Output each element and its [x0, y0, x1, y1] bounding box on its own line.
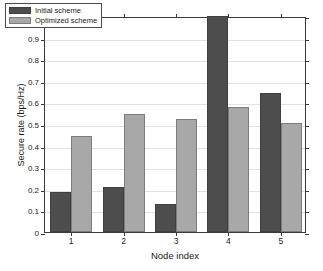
- x-tick-label: 5: [278, 237, 283, 246]
- y-axis-title: Secure rate (bps/Hz): [14, 17, 28, 233]
- y-tick-label: 0.1: [28, 208, 39, 216]
- y-tick-mark-right: [305, 234, 309, 235]
- y-tick-mark-right: [305, 148, 309, 149]
- gridline: [45, 61, 305, 62]
- y-tick-mark-right: [305, 83, 309, 84]
- y-tick-mark: [41, 191, 45, 192]
- x-tick-mark-top: [228, 14, 229, 18]
- bar-optimized-node-4: [228, 107, 249, 232]
- y-tick-mark-right: [305, 18, 309, 19]
- bar-initial-node-3: [155, 204, 176, 232]
- y-tick-label: 0.9: [28, 36, 39, 44]
- gridline: [45, 40, 305, 41]
- y-tick-label: 0: [35, 230, 39, 238]
- y-tick-label: 0.3: [28, 165, 39, 173]
- y-tick-mark-right: [305, 191, 309, 192]
- bar-optimized-node-1: [71, 136, 92, 232]
- y-tick-mark: [41, 126, 45, 127]
- x-axis-title: Node index: [44, 250, 306, 261]
- y-tick-label: 0.2: [28, 187, 39, 195]
- y-tick-mark: [41, 61, 45, 62]
- y-tick-mark: [41, 104, 45, 105]
- y-tick-mark: [41, 83, 45, 84]
- y-tick-mark-right: [305, 169, 309, 170]
- bar-optimized-node-3: [176, 119, 197, 232]
- bar-optimized-node-2: [124, 114, 145, 232]
- bar-chart-figure: Secure rate (bps/Hz) 00.10.20.30.40.50.6…: [0, 0, 323, 271]
- x-tick-mark-top: [176, 14, 177, 18]
- y-tick-label: 0.5: [28, 122, 39, 130]
- x-tick-mark-top: [124, 14, 125, 18]
- legend-label: Initial scheme: [35, 7, 81, 15]
- legend-item[interactable]: Initial scheme: [9, 6, 97, 15]
- y-tick-label: 0.8: [28, 57, 39, 65]
- bar-initial-node-5: [260, 93, 281, 232]
- bar-initial-node-2: [103, 187, 124, 232]
- y-tick-mark-right: [305, 61, 309, 62]
- legend-item[interactable]: Optimized scheme: [9, 16, 97, 25]
- y-tick-label: 0.6: [28, 100, 39, 108]
- plot-area: 00.10.20.30.40.50.60.70.80.91 12345: [44, 17, 306, 233]
- x-tick-mark-top: [281, 14, 282, 18]
- x-tick-label: 4: [226, 237, 231, 246]
- y-tick-mark: [41, 234, 45, 235]
- legend-swatch-initial: [9, 7, 31, 14]
- y-tick-mark: [41, 148, 45, 149]
- y-tick-mark: [41, 40, 45, 41]
- y-tick-mark-right: [305, 40, 309, 41]
- y-tick-mark-right: [305, 104, 309, 105]
- y-tick-label: 0.4: [28, 144, 39, 152]
- legend: Initial schemeOptimized scheme: [5, 3, 102, 28]
- y-tick-mark-right: [305, 212, 309, 213]
- x-tick-label: 2: [121, 237, 126, 246]
- x-tick-label: 1: [69, 237, 74, 246]
- bar-initial-node-4: [207, 16, 228, 232]
- bar-initial-node-1: [50, 192, 71, 232]
- legend-swatch-optimized: [9, 17, 31, 24]
- y-tick-label: 0.7: [28, 79, 39, 87]
- bar-optimized-node-5: [281, 123, 302, 233]
- legend-label: Optimized scheme: [35, 17, 97, 25]
- y-tick-mark: [41, 212, 45, 213]
- gridline: [45, 83, 305, 84]
- y-tick-mark-right: [305, 126, 309, 127]
- x-tick-label: 3: [174, 237, 179, 246]
- y-tick-mark: [41, 169, 45, 170]
